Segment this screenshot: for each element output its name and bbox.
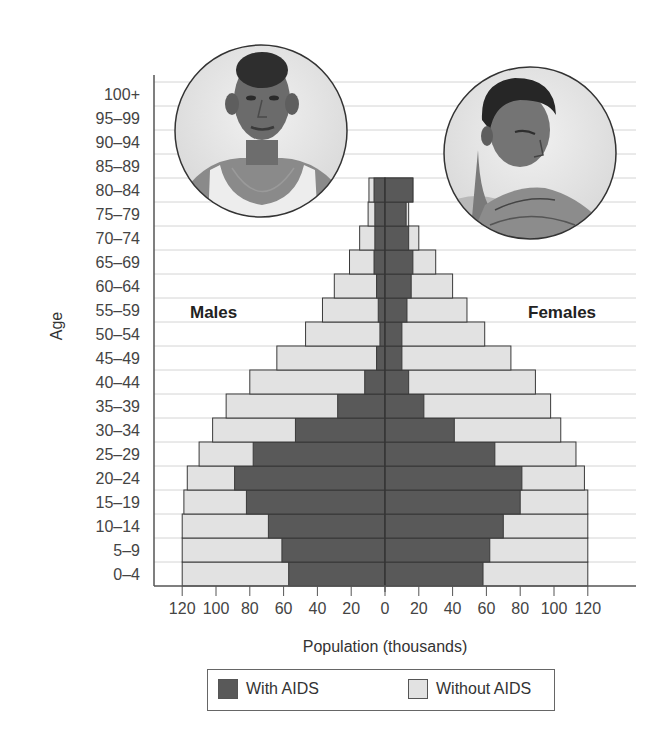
bar-male-with-aids xyxy=(289,562,385,586)
x-tick-label: 100 xyxy=(541,600,568,617)
age-label: 80–84 xyxy=(96,182,141,199)
bar-female-with-aids xyxy=(385,250,413,274)
x-axis-title: Population (thousands) xyxy=(303,638,468,655)
x-tick-label: 40 xyxy=(444,600,462,617)
bar-female-with-aids xyxy=(385,514,503,538)
x-tick-label: 40 xyxy=(309,600,327,617)
legend-item-without-aids: Without AIDS xyxy=(408,679,531,699)
legend: With AIDS Without AIDS xyxy=(207,669,555,711)
bar-male-without-aids xyxy=(322,298,385,322)
bar-male-with-aids xyxy=(338,394,385,418)
bar-male-with-aids xyxy=(375,226,385,250)
bar-male-with-aids xyxy=(365,370,385,394)
age-label: 60–64 xyxy=(96,278,141,295)
x-tick-label: 80 xyxy=(511,600,529,617)
male-portrait-image xyxy=(175,45,350,225)
x-tick-label: 80 xyxy=(241,600,259,617)
legend-label-with-aids: With AIDS xyxy=(246,680,319,698)
bar-male-with-aids xyxy=(268,514,385,538)
age-label: 75–79 xyxy=(96,206,141,223)
female-portrait-image xyxy=(444,67,616,240)
bar-female-with-aids xyxy=(385,178,413,202)
bar-female-with-aids xyxy=(385,442,495,466)
legend-item-with-aids: With AIDS xyxy=(218,679,319,699)
bar-female-with-aids xyxy=(385,538,490,562)
bar-female-with-aids xyxy=(385,418,454,442)
age-label: 30–34 xyxy=(96,422,141,439)
age-label: 90–94 xyxy=(96,134,141,151)
x-tick-label: 20 xyxy=(342,600,360,617)
bar-female-with-aids xyxy=(385,466,522,490)
bar-male-without-aids xyxy=(306,322,385,346)
bar-male-with-aids xyxy=(377,346,385,370)
bar-female-with-aids xyxy=(385,370,409,394)
age-label: 10–14 xyxy=(96,518,141,535)
x-tick-label: 20 xyxy=(410,600,428,617)
bar-male-with-aids xyxy=(374,250,385,274)
bar-male-with-aids xyxy=(235,466,385,490)
age-label: 20–24 xyxy=(96,470,141,487)
population-pyramid-chart: 0–45–910–1415–1920–2425–2930–3435–3940–4… xyxy=(0,0,660,745)
x-tick-label: 60 xyxy=(275,600,293,617)
bar-female-with-aids xyxy=(385,202,406,226)
age-label: 55–59 xyxy=(96,302,141,319)
bar-female-with-aids xyxy=(385,490,520,514)
bar-male-with-aids xyxy=(374,178,385,202)
age-label: 45–49 xyxy=(96,350,141,367)
bar-female-with-aids xyxy=(385,562,483,586)
bar-male-with-aids xyxy=(378,298,385,322)
age-label: 70–74 xyxy=(96,230,141,247)
bar-male-with-aids xyxy=(295,418,385,442)
x-tick-label: 0 xyxy=(381,600,390,617)
bar-female-with-aids xyxy=(385,322,402,346)
bars xyxy=(182,178,588,592)
bar-female-with-aids xyxy=(385,394,424,418)
age-label: 65–69 xyxy=(96,254,141,271)
bar-female-with-aids xyxy=(385,346,402,370)
bar-male-without-aids xyxy=(277,346,385,370)
age-labels: 0–45–910–1415–1920–2425–2930–3435–3940–4… xyxy=(96,86,141,583)
age-label: 35–39 xyxy=(96,398,141,415)
y-axis-title: Age xyxy=(48,312,65,341)
age-label: 5–9 xyxy=(113,542,140,559)
bar-male-with-aids xyxy=(375,202,385,226)
x-tick-label: 120 xyxy=(169,600,196,617)
bar-male-with-aids xyxy=(282,538,385,562)
bar-male-with-aids xyxy=(246,490,385,514)
age-label: 50–54 xyxy=(96,326,141,343)
bar-female-with-aids xyxy=(385,274,411,298)
age-label: 40–44 xyxy=(96,374,141,391)
bar-female-without-aids xyxy=(385,346,511,370)
legend-label-without-aids: Without AIDS xyxy=(436,680,531,698)
x-tick-label: 120 xyxy=(574,600,601,617)
bar-male-with-aids xyxy=(380,322,385,346)
age-label: 85–89 xyxy=(96,158,141,175)
bar-female-with-aids xyxy=(385,298,407,322)
bar-male-with-aids xyxy=(377,274,385,298)
age-label: 0–4 xyxy=(113,566,140,583)
males-label: Males xyxy=(190,303,237,322)
without-aids-swatch xyxy=(408,679,428,699)
females-label: Females xyxy=(528,303,596,322)
with-aids-swatch xyxy=(218,679,238,699)
x-tick-label: 60 xyxy=(478,600,496,617)
x-axis-ticks: 12010080604020020406080100120 xyxy=(169,586,601,617)
bar-female-with-aids xyxy=(385,226,409,250)
age-label: 100+ xyxy=(104,86,140,103)
age-label: 25–29 xyxy=(96,446,141,463)
x-tick-label: 100 xyxy=(203,600,230,617)
bar-male-with-aids xyxy=(253,442,385,466)
age-label: 15–19 xyxy=(96,494,141,511)
age-label: 95–99 xyxy=(96,110,141,127)
